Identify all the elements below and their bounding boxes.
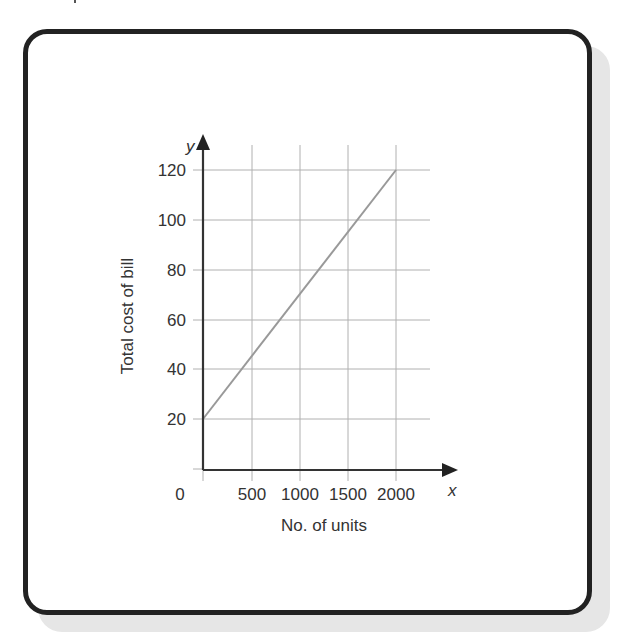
- axes: [203, 148, 445, 470]
- x-tick-2000: 2000: [377, 485, 415, 504]
- y-axis-title: Total cost of bill: [118, 258, 137, 374]
- x-tick-500: 500: [238, 485, 266, 504]
- y-tick-40: 40: [167, 360, 186, 379]
- y-tick-120: 120: [158, 161, 186, 180]
- horizontal-gridlines: [193, 170, 430, 469]
- y-axis-letter: y: [185, 137, 196, 156]
- x-tick-1500: 1500: [329, 485, 367, 504]
- y-axis-arrow-icon: [196, 134, 210, 150]
- y-tick-80: 80: [167, 261, 186, 280]
- y-tick-60: 60: [167, 311, 186, 330]
- x-axis-title: No. of units: [281, 516, 367, 535]
- y-tick-100: 100: [158, 211, 186, 230]
- line-chart: 120 100 80 60 40 20 0 500 1000 1500 2000…: [0, 0, 627, 634]
- origin-label: 0: [175, 485, 184, 504]
- y-tick-20: 20: [167, 410, 186, 429]
- vertical-gridlines: [203, 145, 396, 481]
- x-tick-1000: 1000: [281, 485, 319, 504]
- y-tick-labels: 120 100 80 60 40 20: [158, 161, 186, 429]
- x-tick-labels: 0 500 1000 1500 2000: [175, 485, 415, 504]
- x-axis-arrow-icon: [442, 463, 458, 477]
- x-axis-letter: x: [447, 481, 457, 500]
